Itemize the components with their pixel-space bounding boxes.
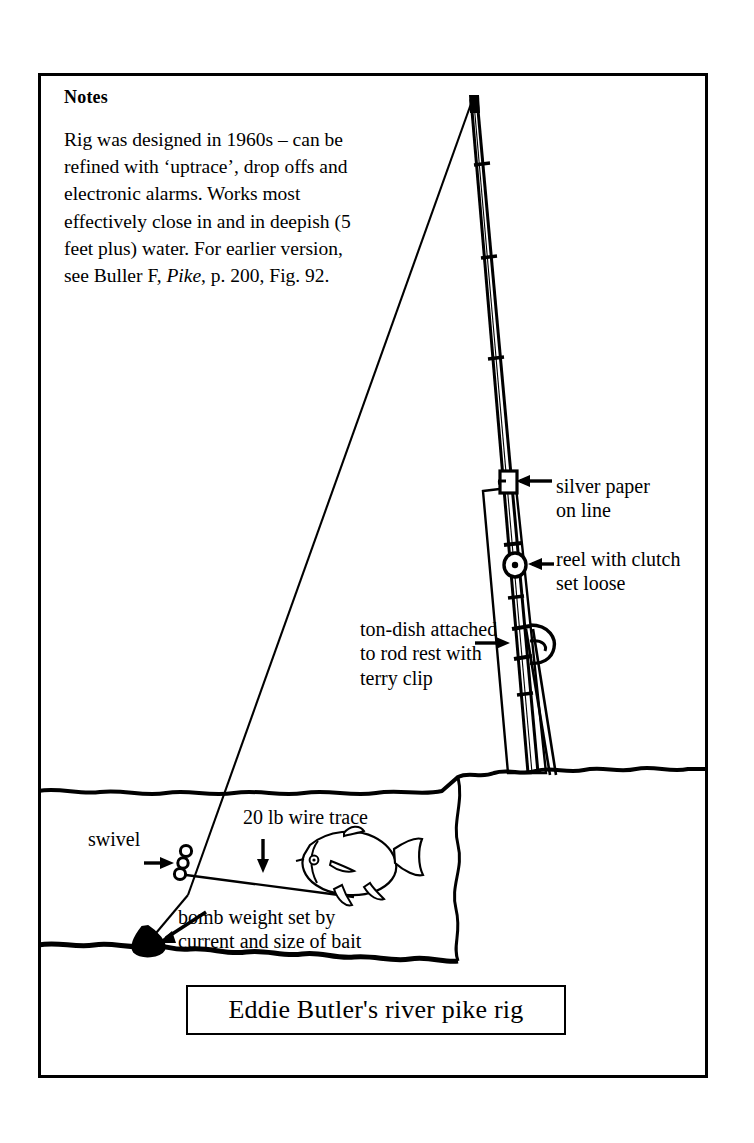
label-wire-trace: 20 lb wire trace: [243, 805, 368, 829]
notes-body: Rig was designed in 1960s – can be refin…: [64, 126, 352, 290]
label-ton-dish-line3: terry clip: [360, 667, 433, 689]
rod-ring: [508, 596, 524, 598]
notes-heading: Notes: [64, 88, 364, 108]
notes-block: Notes Rig was designed in 1960s – can be…: [64, 88, 364, 290]
label-reel-line1: reel with clutch: [556, 548, 680, 570]
swivel-bead: [174, 868, 185, 879]
bank-face: [454, 777, 459, 961]
caption-text: Eddie Butler's river pike rig: [229, 997, 524, 1023]
label-ton-dish: ton-dish attached to rod rest with terry…: [360, 617, 497, 690]
fish-tail: [394, 838, 423, 875]
arrow-head-swivel: [160, 857, 174, 869]
reel-spindle: [512, 562, 518, 568]
label-swivel: swivel: [88, 827, 140, 851]
rod-ring: [488, 357, 504, 359]
label-ton-dish-line2: to rod rest with: [360, 642, 482, 664]
notes-line-6-suffix: ,: [201, 265, 206, 286]
bomb-weight: [132, 926, 164, 956]
rod-ring: [481, 256, 497, 258]
label-ton-dish-line1: ton-dish attached: [360, 618, 497, 640]
label-reel: reel with clutch set loose: [556, 547, 680, 596]
caption-box: Eddie Butler's river pike rig: [186, 985, 566, 1035]
label-bomb: bomb weight set by current and size of b…: [178, 905, 361, 954]
notes-book-title: Pike: [166, 265, 201, 286]
swivel-bead: [180, 845, 191, 856]
arrow-head-reel: [528, 558, 542, 570]
notes-line-1: Rig was designed in 1960s – can: [64, 129, 320, 150]
bait-fish: [296, 827, 423, 906]
fish-pupil: [312, 858, 315, 861]
label-bomb-line2: current and size of bait: [178, 930, 361, 952]
label-reel-line2: set loose: [556, 572, 625, 594]
arrow-head-ton-dish: [496, 637, 510, 649]
swivel-bead: [178, 858, 188, 868]
label-silver-paper-line2: on line: [556, 499, 611, 521]
water-surface-line: [38, 768, 708, 794]
rod-ring: [517, 693, 533, 695]
bomb-weight-body: [132, 926, 164, 956]
reel-foot: [504, 543, 522, 545]
notes-line-7: p. 200, Fig. 92.: [211, 265, 330, 286]
figure-root: Notes Rig was designed in 1960s – can be…: [0, 0, 754, 1143]
arrow-head-wire-trace: [257, 859, 269, 873]
label-silver-paper: silver paper on line: [556, 474, 650, 523]
label-silver-paper-line1: silver paper: [556, 475, 650, 497]
rod-ring: [474, 163, 490, 165]
label-bomb-line1: bomb weight set by: [178, 906, 335, 928]
silver-paper-marker: [498, 471, 517, 493]
